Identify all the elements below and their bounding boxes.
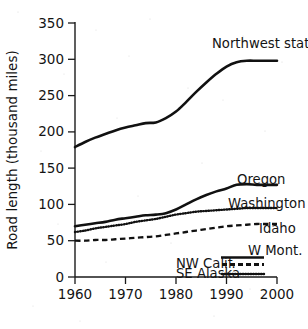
line-chart-canvas: 0 50 100 150 200 250 300 350 1960 1970 1… bbox=[0, 0, 308, 329]
y-tick-label-300: 300 bbox=[38, 51, 64, 67]
legend: W Mont. NW Calif. SE Alaska bbox=[176, 243, 302, 281]
series-line-northwest-states bbox=[75, 61, 277, 147]
y-tick-label-100: 100 bbox=[38, 196, 64, 212]
y-tick-label-150: 150 bbox=[38, 160, 64, 176]
y-axis-title: Road length (thousand miles) bbox=[4, 50, 20, 249]
x-tick-label-1960: 1960 bbox=[58, 286, 92, 302]
y-axis-ticks bbox=[68, 23, 75, 277]
y-tick-label-200: 200 bbox=[38, 123, 64, 139]
series-label-oregon: Oregon bbox=[237, 172, 285, 187]
series-label-washington: Washington bbox=[228, 196, 306, 211]
x-tick-label-1970: 1970 bbox=[108, 286, 142, 302]
y-tick-label-50: 50 bbox=[47, 232, 64, 248]
series-group bbox=[75, 61, 277, 241]
series-label-idaho: Idaho bbox=[259, 221, 296, 236]
x-tick-label-1990: 1990 bbox=[209, 286, 243, 302]
legend-label-w-mont: W Mont. bbox=[248, 243, 302, 258]
series-line-washington bbox=[75, 208, 277, 232]
y-tick-label-250: 250 bbox=[38, 87, 64, 103]
x-tick-label-1980: 1980 bbox=[159, 286, 193, 302]
x-tick-label-2000: 2000 bbox=[260, 286, 294, 302]
chart-figure: 0 50 100 150 200 250 300 350 1960 1970 1… bbox=[0, 0, 308, 329]
y-tick-label-0: 0 bbox=[55, 269, 64, 285]
legend-label-se-alaska: SE Alaska bbox=[176, 266, 240, 281]
series-label-northwest-states: Northwest states bbox=[212, 36, 308, 51]
y-tick-label-350: 350 bbox=[38, 15, 64, 31]
